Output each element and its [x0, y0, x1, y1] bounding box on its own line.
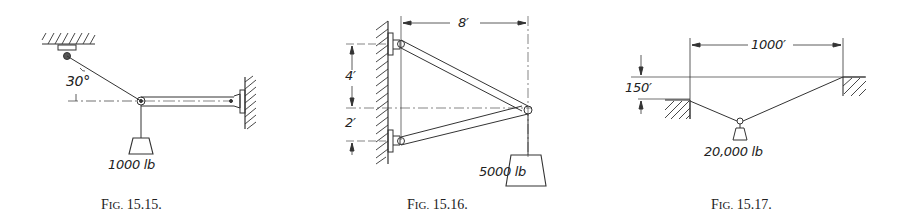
load-label: 1000 lb	[108, 157, 155, 172]
figure-15-16: 8′ 4′ 2′ 5000 lb FIG. 15.16.	[300, 0, 600, 220]
ceiling-support-icon	[42, 33, 95, 60]
figure-caption: FIG. 15.15.	[101, 197, 162, 213]
figure-15-15-drawing	[0, 0, 300, 220]
weight-icon	[129, 138, 153, 154]
figure-15-17-drawing	[603, 0, 903, 220]
figure-caption: FIG. 15.16.	[407, 197, 468, 213]
boom	[137, 90, 245, 113]
cable	[690, 101, 737, 121]
angle-label: 30°	[66, 73, 90, 89]
dimension-height: 150′	[625, 80, 652, 95]
figure-15-16-drawing	[300, 0, 600, 220]
dimension-lower: 2′	[345, 115, 356, 130]
dimension-upper: 4′	[345, 68, 356, 83]
weight-icon	[733, 128, 747, 140]
wall-support-icon	[376, 21, 388, 164]
figure-caption: FIG. 15.17.	[711, 197, 772, 213]
wall-support-icon	[245, 76, 256, 129]
cable	[743, 77, 843, 121]
load-label: 20,000 lb	[704, 144, 763, 159]
figure-15-17: 1000′ 150′ 20,000 lb FIG. 15.17.	[603, 0, 903, 220]
upper-member	[398, 40, 529, 111]
lower-member	[398, 106, 529, 145]
dimension-span: 1000′	[751, 37, 786, 52]
left-support-icon	[665, 100, 690, 119]
dimension-horizontal: 8′	[458, 15, 469, 30]
right-support-icon	[843, 77, 866, 96]
load-label: 5000 lb	[479, 164, 526, 179]
figure-15-15: 30° 1000 lb FIG. 15.15.	[0, 0, 300, 220]
